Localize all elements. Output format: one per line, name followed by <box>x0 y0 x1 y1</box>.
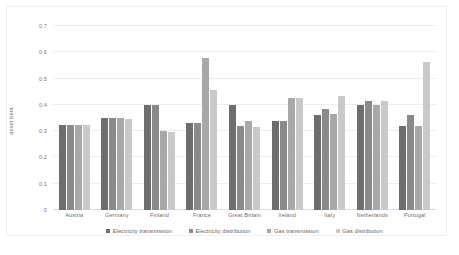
bar[interactable] <box>59 125 66 210</box>
y-axis-tick-label: 0.7 <box>9 23 47 29</box>
bar[interactable] <box>67 125 74 210</box>
x-axis-tick-label: Austria <box>53 212 96 224</box>
bar[interactable] <box>245 121 252 210</box>
bar[interactable] <box>322 109 329 210</box>
bar[interactable] <box>237 126 244 210</box>
x-axis-tick-label: Netherlands <box>351 212 394 224</box>
bar[interactable] <box>296 98 303 210</box>
bar[interactable] <box>117 118 124 210</box>
plot-area: 00.10.20.30.40.50.60.7 <box>53 26 436 210</box>
bar[interactable] <box>202 58 209 210</box>
y-axis-tick-label: 0.1 <box>9 181 47 187</box>
y-axis-tick-label: 0 <box>9 207 47 213</box>
bar[interactable] <box>381 101 388 210</box>
bar[interactable] <box>253 127 260 210</box>
x-axis-tick-label: Germany <box>96 212 139 224</box>
legend-label: Gas distribution <box>342 228 382 234</box>
y-axis-tick-label: 0.6 <box>9 49 47 55</box>
legend-item[interactable]: Electricity distribution <box>189 228 250 234</box>
bar[interactable] <box>365 101 372 210</box>
bar[interactable] <box>288 98 295 210</box>
bar[interactable] <box>210 90 217 210</box>
bar[interactable] <box>109 118 116 210</box>
bar[interactable] <box>357 105 364 210</box>
bar[interactable] <box>415 126 422 210</box>
chart-legend: Electricity transmissionElectricity dist… <box>53 225 436 237</box>
bar[interactable] <box>423 62 430 211</box>
bar-group <box>223 26 266 210</box>
bar[interactable] <box>168 132 175 210</box>
legend-swatch-icon <box>189 229 193 233</box>
legend-item[interactable]: Gas distribution <box>336 228 383 234</box>
x-axis-tick-label: Great Britain <box>223 212 266 224</box>
x-axis-tick-label: Finland <box>138 212 181 224</box>
y-axis-tick-label: 0.3 <box>9 128 47 134</box>
legend-item[interactable]: Gas transmission <box>267 228 318 234</box>
legend-label: Electricity transmission <box>113 228 172 234</box>
bar[interactable] <box>152 105 159 210</box>
legend-swatch-icon <box>106 229 110 233</box>
bar[interactable] <box>101 118 108 210</box>
legend-label: Electricity distribution <box>196 228 251 234</box>
bar-groups <box>53 26 436 210</box>
bar[interactable] <box>280 121 287 210</box>
chart-card: asset beta 00.10.20.30.40.50.60.7 Austri… <box>6 6 447 236</box>
x-axis-tick-label: Portugal <box>394 212 437 224</box>
bar[interactable] <box>194 123 201 210</box>
bar-group <box>266 26 309 210</box>
x-axis-tick-label: France <box>181 212 224 224</box>
legend-swatch-icon <box>267 229 271 233</box>
bar-group <box>138 26 181 210</box>
bar-group <box>181 26 224 210</box>
bar[interactable] <box>399 126 406 210</box>
x-axis-labels: AustriaGermanyFinlandFranceGreat Britain… <box>53 212 436 224</box>
bar-group <box>351 26 394 210</box>
bar[interactable] <box>75 125 82 210</box>
bar[interactable] <box>314 115 321 210</box>
bar-group <box>308 26 351 210</box>
bar[interactable] <box>330 114 337 210</box>
bar[interactable] <box>373 105 380 210</box>
bar-group <box>53 26 96 210</box>
bar[interactable] <box>338 96 345 210</box>
bar[interactable] <box>229 105 236 210</box>
legend-item[interactable]: Electricity transmission <box>106 228 172 234</box>
x-axis-tick-label: Italy <box>308 212 351 224</box>
bar[interactable] <box>272 121 279 210</box>
legend-swatch-icon <box>336 229 340 233</box>
bar-group <box>394 26 437 210</box>
y-axis-tick-label: 0.2 <box>9 154 47 160</box>
x-axis-tick-label: Ireland <box>266 212 309 224</box>
bar[interactable] <box>186 123 193 210</box>
y-axis-tick-label: 0.5 <box>9 76 47 82</box>
bar[interactable] <box>125 119 132 210</box>
bar[interactable] <box>407 115 414 210</box>
bar[interactable] <box>83 125 90 210</box>
bar[interactable] <box>160 131 167 210</box>
bar[interactable] <box>144 105 151 210</box>
y-axis-tick-label: 0.4 <box>9 102 47 108</box>
bar-group <box>96 26 139 210</box>
legend-label: Gas transmission <box>274 228 319 234</box>
